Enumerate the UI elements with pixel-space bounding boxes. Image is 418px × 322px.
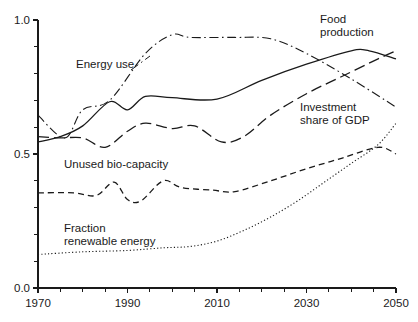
y-tick-label: 0.5 <box>14 148 30 160</box>
x-tick-label: 2010 <box>204 297 230 309</box>
chart-canvas: 1.00.50.019701990201020302050 <box>0 0 418 322</box>
series-label-food-production: Food production <box>320 13 374 39</box>
line-chart: 1.00.50.019701990201020302050 Food produ… <box>0 0 418 322</box>
series-label-food-production-line1: Food <box>320 13 374 26</box>
series-label-investment-line2: share of GDP <box>300 114 370 127</box>
series-label-unused-bio-capacity: Unused bio-capacity <box>64 158 168 170</box>
series-label-fraction-line2: renewable energy <box>64 235 155 248</box>
x-tick-label: 2050 <box>383 297 409 309</box>
y-tick-label: 0.0 <box>14 282 30 294</box>
x-tick-label: 1990 <box>115 297 141 309</box>
x-tick-label: 1970 <box>25 297 51 309</box>
y-tick-label: 1.0 <box>14 14 30 26</box>
series-label-investment-line1: Investment <box>300 101 370 114</box>
series-label-energy-use: Energy use <box>76 58 134 70</box>
series-label-fraction-line1: Fraction <box>64 222 155 235</box>
series-label-fraction-renewable-energy: Fraction renewable energy <box>64 222 155 248</box>
series-label-investment-share-of-gdp: Investment share of GDP <box>300 101 370 127</box>
x-tick-label: 2030 <box>294 297 320 309</box>
series-line-unused-bio-capacity <box>38 147 396 202</box>
series-label-food-production-line2: production <box>320 26 374 39</box>
